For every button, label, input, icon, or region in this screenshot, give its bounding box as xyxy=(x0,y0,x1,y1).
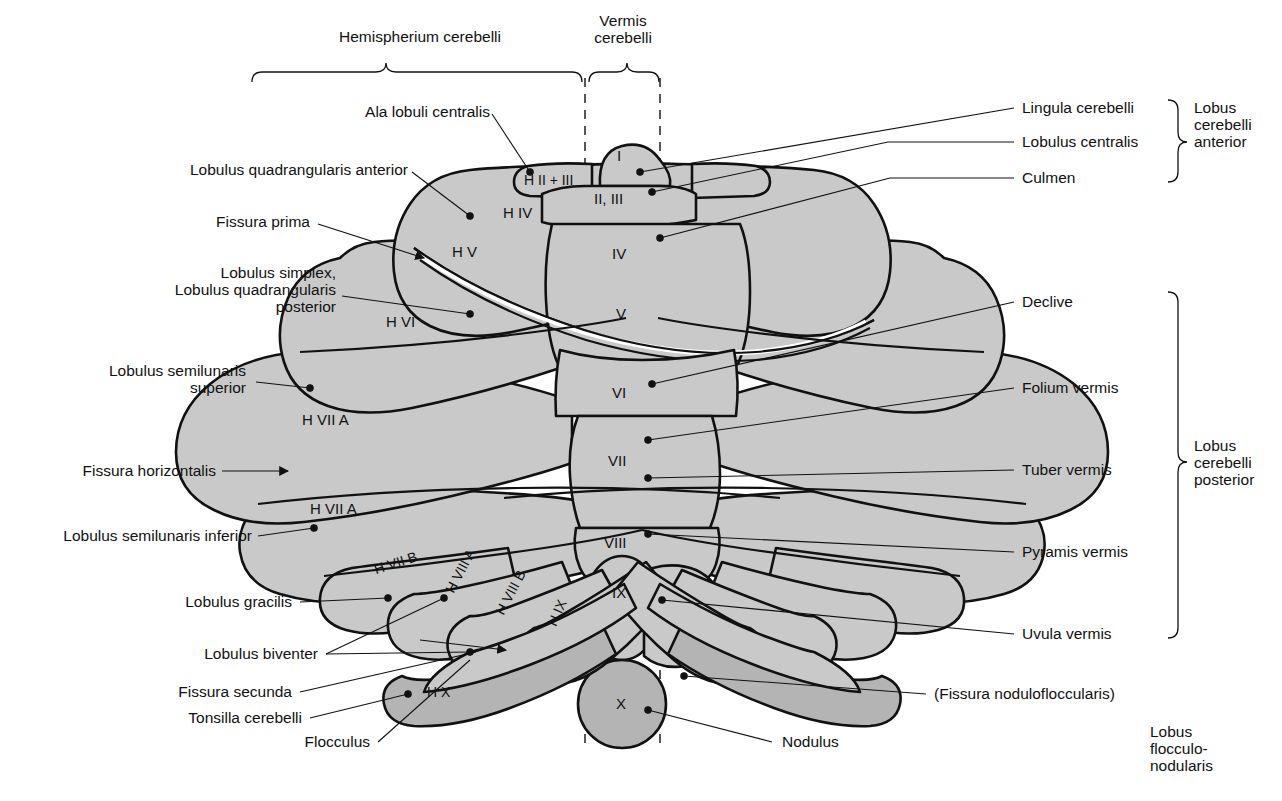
cerebellum-diagram: .sh{fill:#c9c9c9;stroke:#111;stroke-widt… xyxy=(0,0,1282,801)
group-label-lobus-cerebelli-posterior: Lobus cerebelli posterior xyxy=(1194,437,1254,488)
seg-vermis-II-III: II, III xyxy=(594,190,623,207)
seg-vermis-IX: IX xyxy=(612,584,626,601)
vermis-block-IV-V xyxy=(546,224,750,364)
brace-label-hemispherium: Hemispherium cerebelli xyxy=(300,28,540,45)
label-tonsilla-cerebelli: Tonsilla cerebelli xyxy=(110,709,302,726)
label-tuber-vermis: Tuber vermis xyxy=(1022,461,1112,478)
seg-vermis-VI: VI xyxy=(612,384,626,401)
seg-vermis-I: I xyxy=(617,147,621,164)
label-lobulus-simplex: Lobulus simplex, Lobulus quadrangularis … xyxy=(20,264,336,315)
label-lobulus-semilunaris-inferior: Lobulus semilunaris inferior xyxy=(10,527,252,544)
seg-hemi-H-X: H X xyxy=(427,684,450,700)
brace-hemispherium xyxy=(252,63,582,82)
label-lingula-cerebelli: Lingula cerebelli xyxy=(1022,99,1134,116)
label-fissura-secunda: Fissura secunda xyxy=(110,683,292,700)
label-fissura-horizontalis: Fissura horizontalis xyxy=(10,462,216,479)
label-fissura-nodulofloccularis: (Fissura nodulofloccularis) xyxy=(934,685,1115,702)
label-lobulus-centralis: Lobulus centralis xyxy=(1022,133,1138,150)
label-pyramis-vermis: Pyramis vermis xyxy=(1022,543,1128,560)
seg-hemi-H-II-III: H II + III xyxy=(524,172,573,188)
label-nodulus: Nodulus xyxy=(782,733,839,750)
label-fissura-prima: Fissura prima xyxy=(20,213,310,230)
seg-hemi-H-VI: H VI xyxy=(386,313,415,330)
group-label-lobus-cerebelli-anterior: Lobus cerebelli anterior xyxy=(1194,99,1252,150)
seg-hemi-H-VII-A-inf: H VII A xyxy=(310,500,357,517)
label-uvula-vermis: Uvula vermis xyxy=(1022,625,1112,642)
seg-hemi-H-V: H V xyxy=(452,243,477,260)
label-lobulus-biventer: Lobulus biventer xyxy=(90,645,318,662)
seg-hemi-H-VII-A-sup: H VII A xyxy=(302,411,349,428)
seg-vermis-VIII: VIII xyxy=(604,534,627,551)
label-flocculus: Flocculus xyxy=(190,733,370,750)
seg-hemi-H-IV: H IV xyxy=(503,204,532,221)
brace-lobus-anterior xyxy=(1168,100,1187,182)
brace-lobus-posterior xyxy=(1168,292,1187,638)
label-lobulus-semilunaris-superior: Lobulus semilunaris superior xyxy=(20,362,246,396)
label-declive: Declive xyxy=(1022,293,1073,310)
seg-vermis-IV: IV xyxy=(612,245,626,262)
seg-vermis-X: X xyxy=(616,695,626,712)
seg-vermis-V: V xyxy=(616,305,626,322)
label-folium-vermis: Folium vermis xyxy=(1022,379,1118,396)
group-label-lobus-flocculonodularis: Lobus flocculo- nodularis xyxy=(1150,723,1213,774)
label-lobulus-quadrangularis-anterior: Lobulus quadrangularis anterior xyxy=(10,161,408,178)
label-lobulus-gracilis: Lobulus gracilis xyxy=(80,593,292,610)
seg-vermis-VII: VII xyxy=(608,452,626,469)
vermis-VI xyxy=(556,350,738,416)
label-culmen: Culmen xyxy=(1022,169,1075,186)
diagram-svg: .sh{fill:#c9c9c9;stroke:#111;stroke-widt… xyxy=(0,0,1282,801)
brace-vermis xyxy=(589,63,659,82)
brace-label-vermis: Vermis cerebelli xyxy=(568,12,678,46)
label-ala-lobuli-centralis: Ala lobuli centralis xyxy=(90,103,490,120)
